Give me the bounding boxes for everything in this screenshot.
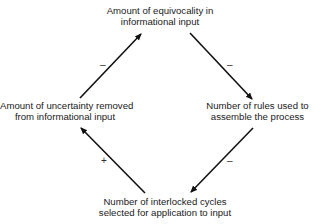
arrow-right-to-bottom (191, 128, 253, 192)
node-label: from informational input (0, 111, 130, 122)
arrow-top-to-right (190, 33, 252, 99)
node-label: assemble the process (200, 111, 315, 122)
node-label: selected for application to input (90, 207, 240, 218)
node-label: Number of interlocked cycles (90, 196, 240, 207)
arrow-left-to-top (80, 34, 141, 98)
node-label: Number of rules used to (200, 100, 315, 111)
node-label: Amount of uncertainty removed (0, 100, 130, 111)
edge-sign-top-right: – (227, 60, 233, 70)
edge-sign-bottom-left: + (101, 156, 107, 166)
node-rules-used: Number of rules used to assemble the pro… (200, 100, 315, 122)
edge-sign-right-bottom: – (227, 156, 233, 166)
node-equivocality: Amount of equivocality in informational … (100, 5, 220, 27)
node-interlocked-cycles: Number of interlocked cycles selected fo… (90, 196, 240, 218)
arrow-bottom-to-left (81, 128, 145, 193)
node-uncertainty-removed: Amount of uncertainty removed from infor… (0, 100, 130, 122)
node-label: Amount of equivocality in (100, 5, 220, 16)
node-label: informational input (100, 16, 220, 27)
edge-sign-left-top: – (100, 60, 106, 70)
